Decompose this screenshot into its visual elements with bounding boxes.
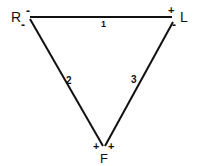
edge-3-label: 3 (131, 74, 137, 85)
edge-1-label: 1 (101, 19, 106, 29)
edge-3-line (105, 22, 173, 146)
node-f-label: F (100, 151, 108, 166)
node-l-sign-top: + (168, 4, 174, 16)
node-r-label: R (11, 9, 21, 25)
node-l-label: L (180, 9, 188, 25)
node-r-sign-bottom: - (21, 18, 25, 32)
node-f-sign-right: + (108, 140, 114, 152)
node-f-sign-left: + (93, 140, 99, 152)
edge-2-label: 2 (66, 75, 72, 86)
node-l-sign-bottom: - (172, 18, 176, 32)
triangle-diagram: 1 2 3 R - - + L - + + F (0, 0, 203, 166)
node-r-sign-top: - (26, 4, 30, 18)
